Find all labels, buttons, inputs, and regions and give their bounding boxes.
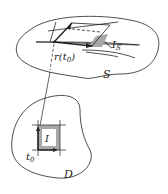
label-d: D bbox=[63, 168, 73, 181]
surface-parametrization-diagram: r(t0) IS S I t0 D bbox=[0, 0, 168, 194]
rectangle-i bbox=[32, 120, 66, 156]
label-is: IS bbox=[111, 39, 121, 52]
surface-grid-curves bbox=[36, 22, 140, 58]
point-r-t0 bbox=[53, 41, 55, 43]
label-r-t0: r(t0) bbox=[54, 51, 75, 64]
label-t0: t0 bbox=[26, 151, 35, 164]
shaded-patch-is bbox=[88, 34, 108, 47]
label-s: S bbox=[103, 68, 111, 81]
